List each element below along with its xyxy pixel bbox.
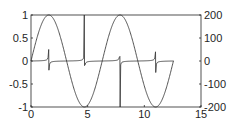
right-y-axis: 2001000-100-200: [199, 9, 226, 113]
right-y-tick-label: -100: [204, 78, 226, 90]
left-y-tick-label: 0: [22, 55, 28, 67]
left-y-axis: 10.50-0.5-1: [9, 9, 33, 113]
left-y-tick-label: 1: [22, 9, 28, 21]
left-y-tick-label: 0.5: [13, 32, 28, 44]
right-y-tick-label: -200: [204, 101, 226, 113]
dual-axis-line-chart: 051015 10.50-0.5-1 2001000-100-200: [0, 0, 231, 127]
right-y-tick-label: 200: [204, 9, 222, 21]
x-tick-label: 5: [85, 108, 91, 120]
right-y-tick-label: 100: [204, 32, 222, 44]
x-tick-label: 10: [138, 108, 150, 120]
right-y-tick-label: 0: [204, 55, 210, 67]
tan-series-line: [31, 15, 173, 107]
x-tick-label: 0: [28, 108, 34, 120]
plot-area: [31, 15, 173, 107]
left-y-tick-label: -0.5: [9, 78, 28, 90]
left-y-tick-label: -1: [18, 101, 28, 113]
